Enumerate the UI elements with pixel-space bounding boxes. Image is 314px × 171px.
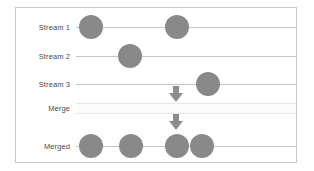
event-circle: [79, 15, 103, 39]
row-label-merge: Merge: [14, 104, 70, 113]
row-label-stream-1: Stream 1: [14, 23, 70, 32]
row-label-merged: Merged: [14, 142, 70, 151]
diagram-canvas: Stream 1 Stream 2 Stream 3 Merge Merged: [0, 0, 314, 171]
event-circle: [119, 134, 143, 158]
event-circle: [118, 44, 142, 68]
arrow-streams-to-merge-icon: [169, 86, 183, 102]
stream-line-stream-3: [76, 84, 296, 85]
row-label-slot-stream-2: Stream 2: [14, 52, 70, 61]
arrow-head: [169, 93, 183, 102]
event-circle: [79, 134, 103, 158]
row-label-slot-stream-3: Stream 3: [14, 80, 70, 89]
row-label-stream-2: Stream 2: [14, 52, 70, 61]
stream-line-stream-2: [76, 56, 296, 57]
row-label-slot-merged: Merged: [14, 142, 70, 151]
event-circle: [165, 15, 189, 39]
row-label-slot-stream-1: Stream 1: [14, 23, 70, 32]
row-label-slot-merge: Merge: [14, 104, 70, 113]
event-circle: [190, 134, 214, 158]
arrow-merge-to-merged-icon: [169, 114, 183, 130]
event-circle: [165, 134, 189, 158]
row-label-stream-3: Stream 3: [14, 80, 70, 89]
merge-band: [76, 103, 296, 114]
event-circle: [196, 72, 220, 96]
arrow-head: [169, 121, 183, 130]
